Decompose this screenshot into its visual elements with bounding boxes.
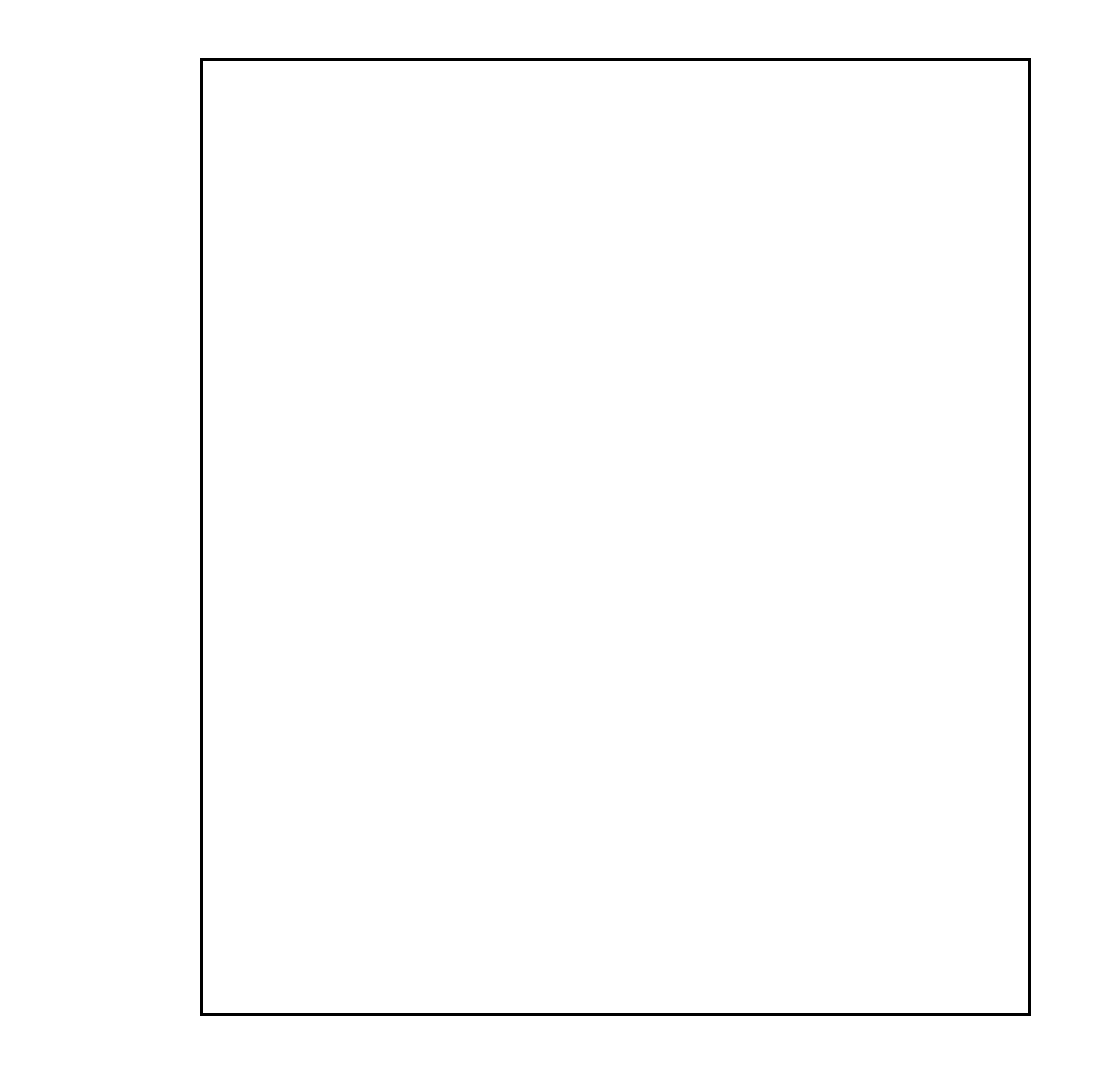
x-axis-tick-labels [0, 1028, 1100, 1068]
probability-plot [200, 58, 1031, 1016]
y-axis-tick-labels [1034, 0, 1100, 1089]
plot-frame [200, 58, 1031, 1016]
scale-for-7-effects [130, 338, 240, 918]
